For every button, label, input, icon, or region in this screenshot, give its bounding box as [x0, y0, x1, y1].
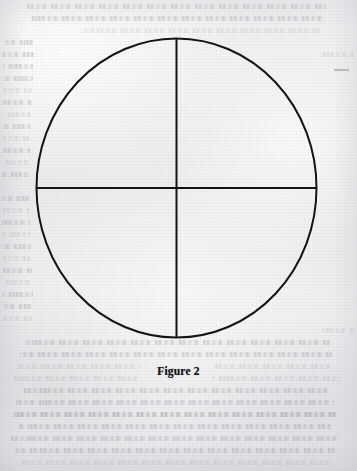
scanned-page: Figure 2	[0, 0, 357, 471]
margin-stray-dash	[334, 69, 349, 71]
figure-drawing	[0, 0, 357, 471]
figure-caption: Figure 2	[0, 365, 357, 377]
